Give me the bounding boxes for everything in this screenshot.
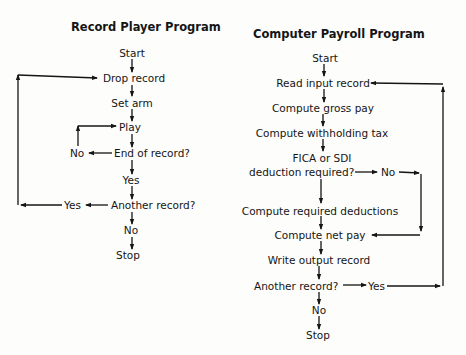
pp-another-record: Another record? bbox=[254, 280, 338, 292]
lp-drop-record: Drop record bbox=[103, 72, 165, 84]
pp-fica-line1: FICA or SDI bbox=[293, 152, 352, 164]
pp-stop: Stop bbox=[306, 329, 330, 341]
lp-another-record: Another record? bbox=[111, 199, 195, 211]
lp-play: Play bbox=[119, 121, 141, 133]
payroll-title: Computer Payroll Program bbox=[253, 27, 425, 41]
pp-another-no: No bbox=[312, 304, 326, 316]
lp-end-yes: Yes bbox=[123, 174, 140, 186]
pp-required-deductions: Compute required deductions bbox=[242, 205, 398, 217]
pp-another-yes: Yes bbox=[368, 280, 385, 292]
lp-another-yes: Yes bbox=[64, 199, 81, 211]
pp-gross-pay: Compute gross pay bbox=[272, 102, 374, 114]
lp-start: Start bbox=[119, 47, 145, 59]
pp-net-pay: Compute net pay bbox=[274, 229, 365, 241]
pp-fica-line2: deduction required? bbox=[249, 166, 354, 178]
pp-start: Start bbox=[312, 52, 338, 64]
lp-end-no: No bbox=[70, 147, 84, 159]
lp-set-arm: Set arm bbox=[111, 97, 152, 109]
pp-fica-no: No bbox=[381, 166, 395, 178]
lp-stop: Stop bbox=[116, 249, 140, 261]
pp-read-input: Read input record bbox=[276, 77, 370, 89]
flowchart-connectors bbox=[0, 0, 466, 355]
record-player-title: Record Player Program bbox=[71, 20, 221, 34]
lp-another-no: No bbox=[124, 224, 138, 236]
pp-write-output: Write output record bbox=[268, 254, 371, 266]
pp-withholding: Compute withholding tax bbox=[256, 127, 389, 139]
lp-end-of-record: End of record? bbox=[114, 147, 190, 159]
